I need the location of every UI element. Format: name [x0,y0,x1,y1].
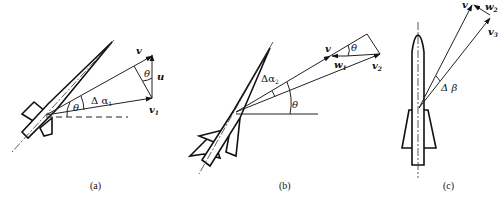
panel-a: v u v1 θ θ Δ α1 (a) [12,40,164,192]
label-v2-b: v2 [372,60,382,72]
label-w2-c: w2 [485,1,498,13]
label-delta-beta-c: Δ β [440,82,457,93]
label-delta-alpha-b: Δα2 [261,73,279,85]
label-theta-top-a: θ [144,68,150,79]
construction-line-b [367,34,380,54]
label-w1-b: w1 [334,59,347,71]
label-theta-bottom-a: θ [73,102,79,113]
caption-b: (b) [279,180,291,192]
delta-alpha-arc-a [81,96,84,110]
label-v-c: v [462,0,468,10]
body-a [22,42,112,138]
delta-alpha-arc-b [272,91,275,97]
theta-arc-bottom-a [67,102,70,117]
rocket-b [190,42,273,174]
caption-c: (c) [443,180,454,192]
delta-beta-arc-c [436,76,440,81]
panel-b: v w1 v2 θ θ Δα2 (b) [190,34,382,192]
label-v-a: v [136,45,142,56]
vector-v2-b [236,54,380,112]
vector-v3-c [419,18,490,108]
theta-arc-top-b [348,45,349,56]
theta-arc-bottom-b [287,82,291,114]
label-u-a: u [157,71,164,82]
label-delta-alpha-a: Δ α1 [91,95,112,107]
rocket-c [402,22,436,178]
rocket-velocity-diagram: v u v1 θ θ Δ α1 (a) v w1 [0,0,504,202]
label-v1-a: v1 [149,104,159,116]
caption-a: (a) [90,180,101,192]
panel-c: v w2 v3 Δ β (c) [402,0,498,192]
label-v3-c: v3 [488,26,498,38]
label-v-b: v [325,43,331,54]
label-theta-top-b: θ [351,42,357,53]
label-theta-bottom-b: θ [292,99,298,110]
